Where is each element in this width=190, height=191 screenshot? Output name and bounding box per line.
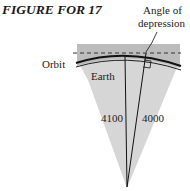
- earth-label: Earth: [91, 70, 115, 82]
- radius-4000-label: 4000: [142, 112, 164, 124]
- orbit-label: Orbit: [42, 58, 65, 70]
- angle-label-line2: depression: [138, 17, 185, 29]
- radius-4100-label: 4100: [101, 112, 123, 124]
- angle-label-line1: Angle of: [143, 4, 182, 16]
